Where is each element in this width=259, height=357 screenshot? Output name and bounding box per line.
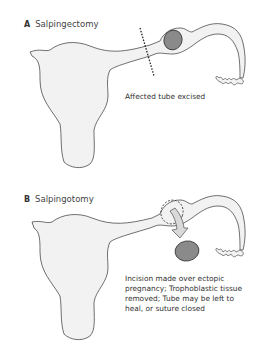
panel-b-title: BSalpingotomy	[24, 194, 94, 204]
panel-a-caption: Affected tube excised	[125, 92, 205, 102]
panel-salpingectomy: ASalpingectomy Affected tube excised	[0, 0, 259, 180]
panel-b-letter: B	[24, 195, 30, 204]
panel-salpingotomy: BSalpingotomy Incision made over ectopic…	[0, 180, 259, 357]
panel-a-title: ASalpingectomy	[24, 19, 98, 29]
panel-b-caption: Incision made over ectopic pregnancy; Tr…	[125, 274, 242, 314]
trophoblastic-tissue	[173, 239, 200, 263]
fimbriae-shape	[216, 249, 244, 257]
uterus-shape	[32, 196, 245, 340]
fimbriae-shape	[216, 77, 244, 85]
panel-a-letter: A	[24, 20, 30, 29]
salpingotomy-illustration	[0, 180, 259, 357]
